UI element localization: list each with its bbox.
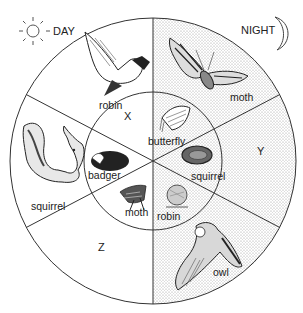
outer-owl-label: owl bbox=[213, 266, 229, 278]
inner-badger-label: badger bbox=[88, 169, 121, 181]
sleeping-squirrel-illustration bbox=[182, 146, 212, 164]
crescent-moon-icon bbox=[275, 17, 288, 50]
squirrel-illustration bbox=[23, 123, 84, 182]
sun-icon bbox=[19, 17, 50, 45]
outer-robin-label: robin bbox=[99, 99, 123, 111]
badger-illustration bbox=[91, 151, 129, 171]
inner-moth-label: moth bbox=[125, 206, 149, 218]
day-night-diagram: DAY NIGHT X Y Z robin moth squirrel owl bbox=[0, 0, 303, 313]
day-label: DAY bbox=[53, 25, 75, 37]
inner-butterfly-label: butterfly bbox=[148, 135, 186, 147]
inner-robin-label: robin bbox=[157, 210, 181, 222]
section-z-label: Z bbox=[98, 241, 105, 253]
night-label: NIGHT bbox=[241, 24, 276, 36]
outer-moth-label: moth bbox=[230, 91, 254, 103]
section-x-label: X bbox=[124, 110, 132, 122]
robin-illustration bbox=[85, 32, 150, 96]
inner-squirrel-label: squirrel bbox=[191, 170, 225, 182]
outer-squirrel-label: squirrel bbox=[31, 200, 65, 212]
section-y-label: Y bbox=[257, 145, 265, 157]
